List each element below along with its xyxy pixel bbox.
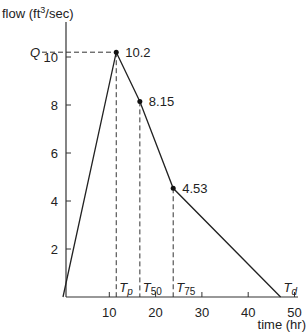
- y-tick-label: 4: [51, 194, 58, 209]
- t-label: T75: [176, 280, 196, 297]
- x-tick-label: 20: [148, 305, 162, 320]
- t-label: T50: [143, 280, 163, 297]
- y-axis-label: flow (ft3/sec): [2, 5, 73, 21]
- hydrograph-line: [63, 52, 281, 297]
- t-label: Td: [284, 280, 298, 297]
- t-label: Tp: [119, 280, 133, 297]
- value-label: 8.15: [149, 94, 174, 109]
- x-axis-label: time (hr): [258, 317, 306, 332]
- q-label: Q: [30, 45, 40, 60]
- y-tick-label: 8: [51, 98, 58, 113]
- x-tick-label: 30: [195, 305, 209, 320]
- data-point: [114, 50, 119, 55]
- value-label: 10.2: [125, 45, 150, 60]
- x-tick-label: 10: [102, 305, 116, 320]
- hydrograph-chart: 2468101020304050flow (ft3/sec)time (hr)1…: [0, 0, 308, 333]
- y-tick-label: 2: [51, 242, 58, 257]
- x-tick-label: 40: [241, 305, 255, 320]
- y-tick-label: 6: [51, 146, 58, 161]
- data-point: [137, 99, 142, 104]
- value-label: 4.53: [182, 181, 207, 196]
- data-point: [171, 186, 176, 191]
